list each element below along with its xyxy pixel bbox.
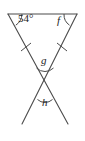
angle-label-h: h — [42, 97, 48, 108]
angle-label-f: f — [57, 15, 60, 26]
geometry-drawing — [0, 0, 85, 141]
angle-label-54-degrees: 54° — [18, 13, 33, 24]
geometry-figure: 54° f g h — [0, 0, 85, 141]
tick-mark-left — [21, 43, 31, 51]
line-from-top-right-vertex — [22, 14, 77, 124]
angle-label-g: g — [41, 55, 47, 66]
angle-arc-top-right — [64, 14, 70, 25]
